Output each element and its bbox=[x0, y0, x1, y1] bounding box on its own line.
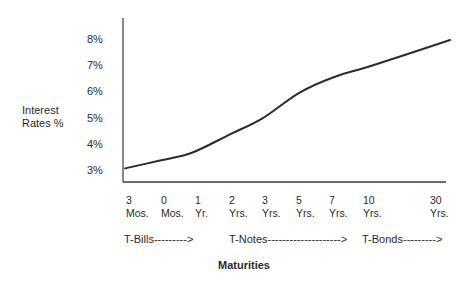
x-tick-3mos-top: 3 bbox=[126, 194, 149, 207]
x-tick-3yrs-top: 3 bbox=[262, 194, 281, 207]
x-tick-30yrs-bottom: Yrs. bbox=[430, 207, 449, 220]
x-tick-10yrs-top: 10 bbox=[363, 194, 382, 207]
x-tick-6mos: 0 Mos. bbox=[161, 194, 184, 220]
x-tick-2yrs-top: 2 bbox=[229, 194, 248, 207]
x-tick-3mos-bottom: Mos. bbox=[126, 207, 149, 220]
x-tick-6mos-top: 0 bbox=[161, 194, 184, 207]
x-tick-10yrs-bottom: Yrs. bbox=[363, 207, 382, 220]
x-tick-5yrs-top: 5 bbox=[296, 194, 315, 207]
x-tick-3mos: 3 Mos. bbox=[126, 194, 149, 220]
t-bonds-range-label: T-Bonds---------> bbox=[362, 233, 442, 245]
x-tick-3yrs-bottom: Yrs. bbox=[262, 207, 281, 220]
x-tick-10yrs: 10 Yrs. bbox=[363, 194, 382, 220]
x-tick-5yrs-bottom: Yrs. bbox=[296, 207, 315, 220]
x-tick-3yrs: 3 Yrs. bbox=[262, 194, 281, 220]
x-tick-7yrs-bottom: Yrs. bbox=[329, 207, 348, 220]
t-notes-range-label: T-Notes--------------------> bbox=[229, 233, 347, 245]
x-tick-2yrs: 2 Yrs. bbox=[229, 194, 248, 220]
x-tick-1yr-top: 1 bbox=[195, 194, 208, 207]
x-tick-5yrs: 5 Yrs. bbox=[296, 194, 315, 220]
x-tick-1yr: 1 Yr. bbox=[195, 194, 208, 220]
x-tick-6mos-bottom: Mos. bbox=[161, 207, 184, 220]
x-tick-30yrs-top: 30 bbox=[430, 194, 449, 207]
x-axis-title: Maturities bbox=[218, 259, 270, 271]
x-tick-30yrs: 30 Yrs. bbox=[430, 194, 449, 220]
yield-curve-line bbox=[125, 40, 450, 168]
x-tick-1yr-bottom: Yr. bbox=[195, 207, 208, 220]
x-tick-7yrs-top: 7 bbox=[329, 194, 348, 207]
t-bills-range-label: T-Bills---------> bbox=[124, 233, 193, 245]
x-tick-2yrs-bottom: Yrs. bbox=[229, 207, 248, 220]
x-tick-7yrs: 7 Yrs. bbox=[329, 194, 348, 220]
